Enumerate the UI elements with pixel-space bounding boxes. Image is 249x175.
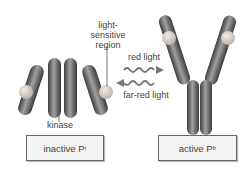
state-label: inactive P	[43, 143, 84, 154]
inactive-phytochrome	[16, 46, 113, 122]
label-line: light-	[86, 20, 130, 30]
active-pfr-box: active Pfr	[158, 135, 237, 161]
red-light-label: red light	[126, 52, 162, 62]
kinase-label: kinase	[40, 120, 80, 130]
chromophore-right	[221, 31, 235, 45]
inactive-pr-box: inactive Pr	[26, 135, 104, 161]
state-subscript: fr	[213, 145, 217, 151]
label-line: sensitive	[86, 30, 130, 40]
state-subscript: r	[85, 145, 87, 151]
chromophore-right	[99, 85, 113, 99]
state-label: active P	[179, 143, 213, 154]
light-sensitive-region-label: light- sensitive region	[86, 20, 130, 50]
red-light-arrow	[124, 66, 164, 74]
chromophore-left	[162, 31, 176, 45]
far-red-light-arrow	[116, 79, 154, 87]
label-line: region	[86, 40, 130, 50]
active-phytochrome	[157, 14, 238, 135]
chromophore-left	[19, 85, 33, 99]
far-red-light-label: far-red light	[120, 90, 172, 100]
